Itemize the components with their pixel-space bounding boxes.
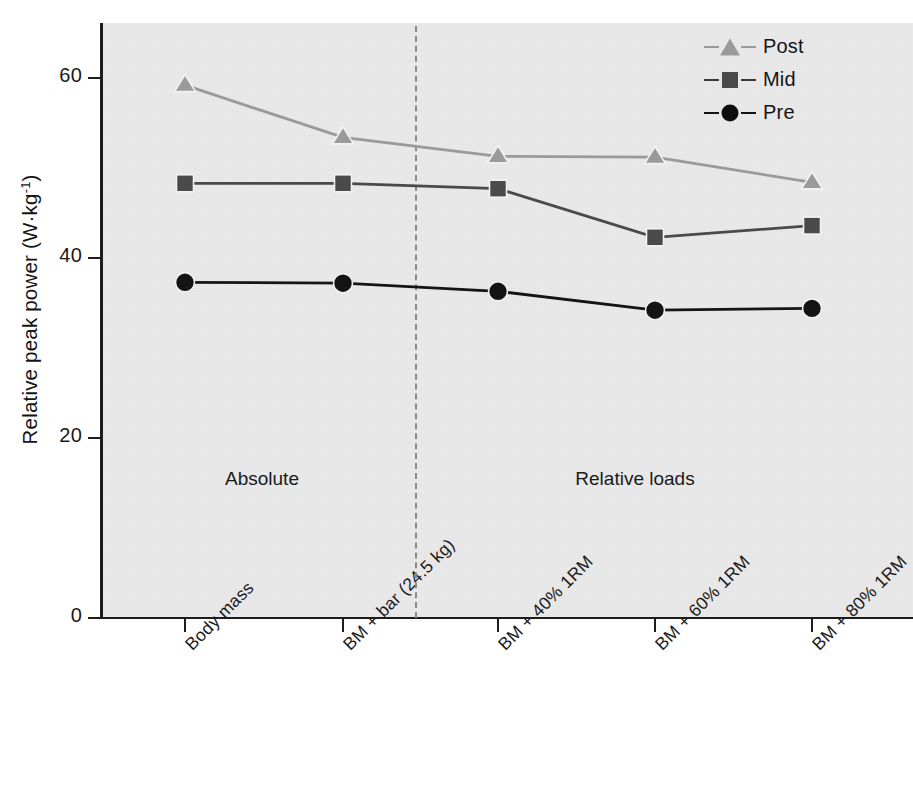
legend-entry-pre[interactable]: Pre (704, 96, 804, 129)
series-pre (176, 273, 822, 320)
data-point-pre-1[interactable] (334, 274, 353, 293)
data-point-pre-3[interactable] (646, 301, 665, 320)
circle-marker-icon (704, 102, 756, 124)
data-point-mid-4[interactable] (804, 217, 821, 234)
data-point-mid-2[interactable] (490, 180, 507, 197)
square-marker-icon (704, 69, 756, 91)
series-mid (177, 175, 821, 246)
chart-legend: Post Mid Pre (704, 30, 804, 129)
data-point-pre-0[interactable] (176, 273, 195, 292)
legend-label-mid: Mid (763, 68, 796, 91)
legend-label-post: Post (763, 35, 804, 58)
data-point-mid-1[interactable] (335, 175, 352, 192)
triangle-marker-icon (704, 36, 756, 58)
chart-figure: 0204060 Body massBM + bar (24.5 kg)BM + … (0, 0, 913, 794)
data-point-post-0[interactable] (175, 75, 196, 92)
legend-entry-mid[interactable]: Mid (704, 63, 804, 96)
data-point-mid-3[interactable] (647, 229, 664, 246)
legend-label-pre: Pre (763, 101, 795, 124)
data-point-pre-2[interactable] (489, 282, 508, 301)
data-point-mid-0[interactable] (177, 175, 194, 192)
legend-entry-post[interactable]: Post (704, 30, 804, 63)
data-point-post-3[interactable] (645, 147, 666, 164)
data-point-pre-4[interactable] (803, 299, 822, 318)
